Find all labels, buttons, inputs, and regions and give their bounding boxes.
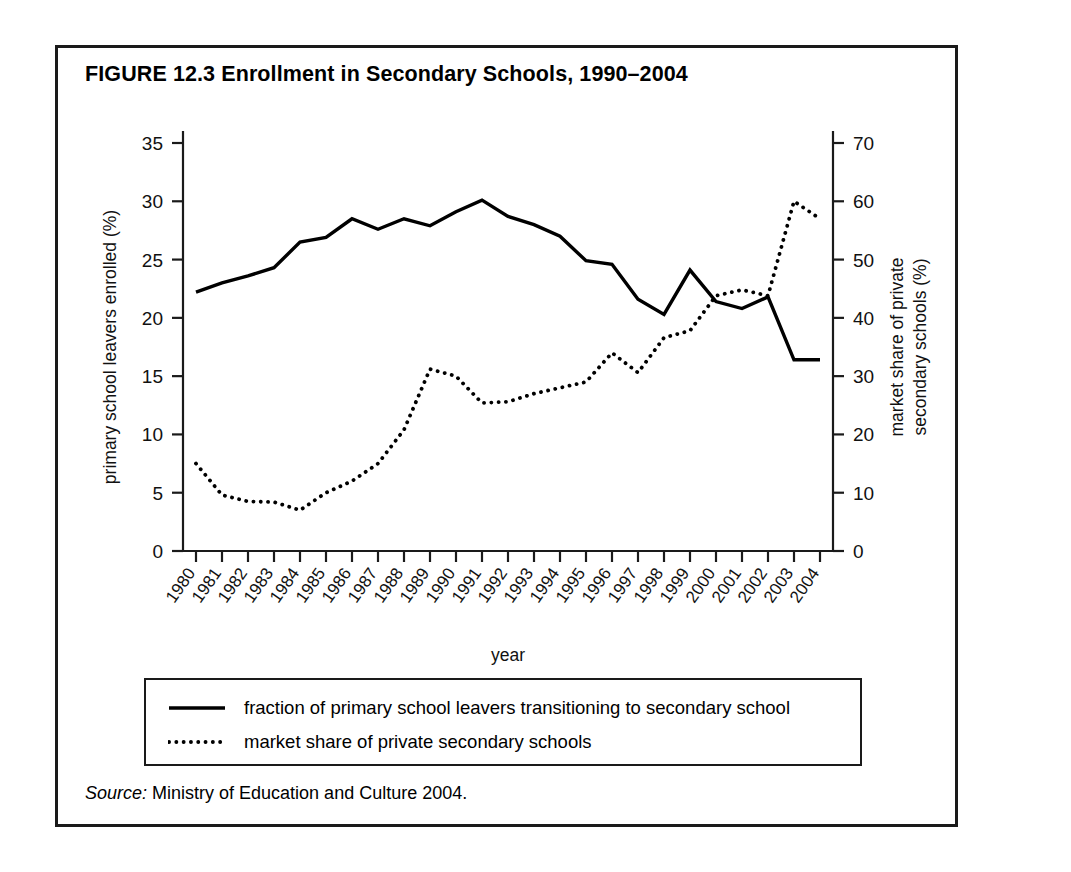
x-axis-ticks: 1980198119821983198419851986198719881989… [162, 551, 823, 606]
legend-label-solid: fraction of primary school leavers trans… [244, 697, 790, 719]
y-axis-right-label-line1: market share of private [887, 258, 907, 437]
y-tick-label-left: 20 [142, 308, 163, 329]
source-note: Source: Ministry of Education and Cultur… [85, 783, 467, 804]
source-prefix: Source: [85, 783, 147, 803]
y-tick-label-right: 70 [853, 133, 874, 154]
chart-series-group [196, 200, 820, 510]
y-axis-left-ticks: 05101520253035 [142, 133, 183, 562]
legend-swatch-dotted-line [168, 735, 226, 749]
legend-label-dotted: market share of private secondary school… [244, 731, 592, 753]
legend-swatch-solid-line [168, 701, 226, 715]
x-axis-label: year [491, 645, 525, 665]
y-tick-label-right: 60 [853, 191, 874, 212]
y-tick-label-left: 35 [142, 133, 163, 154]
y-tick-label-left: 5 [152, 483, 163, 504]
y-tick-label-right: 10 [853, 483, 874, 504]
y-tick-label-right: 40 [853, 308, 874, 329]
legend-item-dotted: market share of private secondary school… [168, 730, 592, 754]
y-tick-label-right: 20 [853, 424, 874, 445]
chart-legend: fraction of primary school leavers trans… [144, 678, 862, 766]
axis-lines [183, 131, 833, 551]
y-tick-label-left: 0 [152, 541, 163, 562]
source-text: Ministry of Education and Culture 2004. [147, 783, 467, 803]
y-tick-label-right: 0 [853, 541, 864, 562]
y-tick-label-right: 50 [853, 250, 874, 271]
y-axis-right-ticks: 010203040506070 [833, 133, 874, 562]
y-tick-label-left: 25 [142, 250, 163, 271]
y-tick-label-left: 15 [142, 366, 163, 387]
y-axis-right-label-line2: secondary schools (%) [910, 258, 930, 435]
legend-item-solid: fraction of primary school leavers trans… [168, 696, 790, 720]
series-line-private-market-share [196, 201, 820, 510]
figure-frame: FIGURE 12.3 Enrollment in Secondary Scho… [55, 45, 958, 827]
x-tick-label: 2004 [786, 564, 823, 606]
series-line-transition-rate [196, 200, 820, 360]
y-axis-left-label: primary school leavers enrolled (%) [100, 210, 120, 484]
y-tick-label-right: 30 [853, 366, 874, 387]
y-tick-label-left: 10 [142, 424, 163, 445]
y-tick-label-left: 30 [142, 191, 163, 212]
